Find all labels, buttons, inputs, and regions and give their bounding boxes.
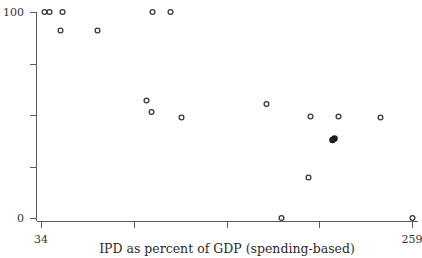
- data-point: [336, 114, 341, 119]
- y-tick-label-max: 100: [3, 6, 24, 19]
- data-point: [95, 28, 100, 33]
- data-point: [150, 10, 155, 15]
- data-point: [149, 110, 154, 115]
- x-tick-label-min: 34: [34, 233, 48, 246]
- data-point: [42, 10, 47, 15]
- data-point: [144, 98, 149, 103]
- x-axis-ticks: [42, 222, 413, 228]
- data-point: [168, 10, 173, 15]
- plot-canvas: 100 0 34 259 IPD as percent of GDP (spen…: [0, 0, 422, 258]
- y-axis-ticks: [30, 13, 37, 219]
- data-point: [60, 10, 65, 15]
- data-point: [58, 28, 63, 33]
- data-point-group: [42, 10, 415, 221]
- x-axis-title: IPD as percent of GDP (spending-based): [99, 241, 355, 256]
- data-point: [378, 115, 383, 120]
- data-point: [47, 10, 52, 15]
- data-point: [308, 114, 313, 119]
- data-point: [410, 216, 415, 221]
- x-tick-label-max: 259: [402, 233, 422, 246]
- data-point: [264, 102, 269, 107]
- data-point: [306, 175, 311, 180]
- y-tick-label-min: 0: [17, 212, 24, 225]
- data-point: [179, 115, 184, 120]
- scatter-plot-figure: 100 0 34 259 IPD as percent of GDP (spen…: [0, 0, 422, 258]
- data-point: [279, 216, 284, 221]
- data-point: [330, 137, 335, 142]
